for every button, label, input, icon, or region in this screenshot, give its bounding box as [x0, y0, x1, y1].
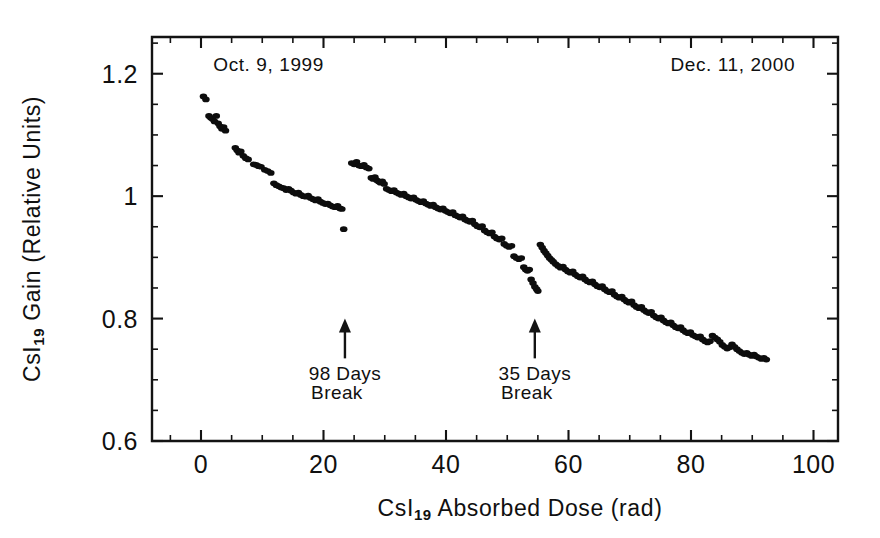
data-series-post-break-2: [537, 242, 771, 363]
break-2-label-line1: 35 Days: [499, 363, 572, 384]
figure-container: 020406080100 0.60.811.2 Oct. 9, 1999Dec.…: [0, 0, 880, 538]
y-tick-label: 0.8: [102, 305, 138, 333]
end-date-label: Dec. 11, 2000: [670, 54, 795, 75]
data-point: [213, 113, 221, 119]
y-tick-label: 0.6: [102, 427, 138, 455]
break-1-arrow-head-icon: [339, 319, 351, 333]
data-series-post-break-1: [348, 159, 542, 294]
y-axis-tick-labels: 0.60.811.2: [102, 60, 138, 455]
data-point: [508, 243, 516, 249]
x-axis-title-pre: CsI: [378, 495, 414, 521]
y-tick-label: 1: [124, 182, 138, 210]
y-axis-ticks: [152, 43, 838, 441]
break-1-label-line2: Break: [311, 382, 363, 403]
svg-text:CsI19 Absorbed Dose (rad): CsI19 Absorbed Dose (rad): [378, 495, 663, 523]
data-point: [526, 267, 534, 273]
x-axis-tick-labels: 020406080100: [194, 450, 835, 478]
x-axis-ticks: [170, 37, 813, 441]
data-point: [763, 357, 771, 363]
x-axis-title-post: Absorbed Dose (rad): [432, 495, 663, 521]
x-tick-label: 80: [677, 450, 706, 478]
data-point: [518, 255, 526, 261]
x-tick-label: 20: [309, 450, 338, 478]
y-tick-label: 1.2: [102, 60, 138, 88]
break-2-label-line2: Break: [501, 382, 553, 403]
y-axis-title-post: Gain (Relative Units): [19, 96, 45, 328]
annotation-end-date: Dec. 11, 2000: [670, 54, 795, 75]
y-axis-title: CsI19 Gain (Relative Units): [19, 96, 47, 382]
data-point: [222, 128, 230, 134]
data-series-pre-break-1: [200, 94, 348, 233]
svg-text:CsI19 Gain (Relative Units): CsI19 Gain (Relative Units): [19, 96, 47, 382]
data-point: [380, 181, 388, 187]
x-tick-label: 0: [194, 450, 208, 478]
break-1-label-line1: 98 Days: [309, 363, 382, 384]
annotation-break-1: 98 DaysBreak: [309, 319, 382, 404]
data-point: [267, 170, 275, 176]
data-point: [534, 288, 542, 294]
data-point: [340, 226, 348, 232]
annotations-layer: Oct. 9, 1999Dec. 11, 200098 DaysBreak35 …: [213, 54, 795, 404]
data-point: [498, 236, 506, 242]
data-points-layer: [200, 94, 770, 363]
x-axis-title-subscript: 19: [414, 506, 432, 523]
data-point: [365, 166, 373, 172]
x-tick-label: 100: [792, 450, 835, 478]
x-axis-title: CsI19 Absorbed Dose (rad): [378, 495, 663, 523]
y-axis-title-subscript: 19: [30, 328, 47, 346]
start-date-label: Oct. 9, 1999: [213, 54, 324, 75]
break-2-arrow-head-icon: [529, 319, 541, 333]
data-point: [244, 157, 252, 163]
annotation-break-2: 35 DaysBreak: [499, 319, 572, 404]
data-point: [338, 206, 346, 212]
gain-vs-dose-chart: 020406080100 0.60.811.2 Oct. 9, 1999Dec.…: [0, 0, 880, 538]
annotation-start-date: Oct. 9, 1999: [213, 54, 324, 75]
x-tick-label: 40: [432, 450, 461, 478]
x-tick-label: 60: [554, 450, 583, 478]
data-point: [202, 97, 210, 103]
y-axis-title-pre: CsI: [19, 346, 45, 382]
